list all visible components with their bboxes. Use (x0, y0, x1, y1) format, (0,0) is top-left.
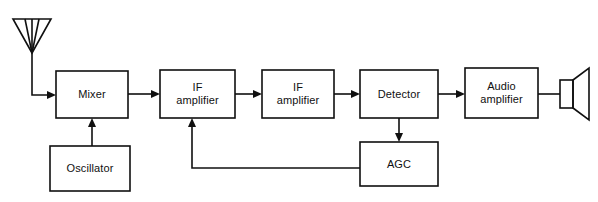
block-detector (360, 70, 438, 118)
block-oscillator (50, 146, 130, 191)
wire-detector-to-agc (395, 118, 403, 142)
wire-detector-to-audio-amplifier (438, 90, 465, 98)
block-agc (360, 142, 438, 186)
block-mixer (56, 71, 128, 118)
block-if-amplifier-2 (262, 70, 334, 118)
wire-if-amplifier-2-to-detector (334, 90, 360, 98)
block-if-amplifier-1 (160, 70, 235, 118)
antenna-icon (13, 19, 51, 53)
wire-mixer-to-if-amplifier-1 (128, 90, 160, 98)
diagram-canvas (0, 0, 598, 202)
wire-agc-feedback-to-if-amplifier-1 (188, 118, 360, 168)
block-diagram: Mixer Oscillator IF amplifier IF amplifi… (0, 0, 598, 202)
wire-antenna-to-mixer (32, 53, 56, 99)
block-audio-amplifier (465, 68, 538, 118)
loudspeaker-icon (560, 68, 589, 120)
wire-if-amplifier-1-to-if-amplifier-2 (235, 90, 262, 98)
wire-oscillator-to-mixer (88, 118, 96, 146)
